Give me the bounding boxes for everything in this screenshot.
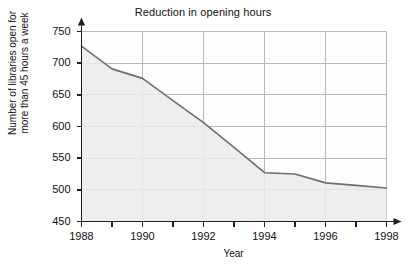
x-axis-tick-label: 1994 (245, 230, 285, 242)
y-axis-tick-label: 450 (41, 215, 71, 227)
y-axis-tick-label: 650 (41, 88, 71, 100)
y-axis-tick-label: 700 (41, 56, 71, 68)
x-axis-tick-label: 1992 (184, 230, 224, 242)
y-axis-tick-label: 500 (41, 183, 71, 195)
y-axis-tick-label: 600 (41, 120, 71, 132)
x-axis-tick-label: 1990 (123, 230, 163, 242)
chart-container: Reduction in opening hours Number of lib… (0, 0, 406, 271)
x-axis-tick-label: 1996 (306, 230, 346, 242)
y-axis-tick-label: 550 (41, 151, 71, 163)
x-axis-tick-label: 1998 (367, 230, 406, 242)
y-axis-tick-label: 750 (41, 25, 71, 37)
x-axis-tick-label: 1988 (62, 230, 102, 242)
